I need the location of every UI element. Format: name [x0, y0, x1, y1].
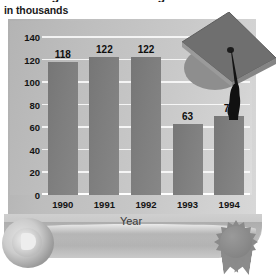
chart-title: ...Earning a B.A. or B.S. Degree — [4, 0, 276, 2]
y-tick-label: 80 — [10, 99, 40, 110]
bar-value-label: 122 — [125, 44, 167, 55]
diploma-scroll-roll-core — [21, 233, 36, 250]
y-tick-label: 20 — [10, 167, 40, 178]
bar — [48, 62, 78, 195]
y-tick-label: 0 — [10, 190, 40, 201]
bar-value-label: 122 — [84, 44, 126, 55]
bar-slot: 122 — [125, 21, 167, 195]
graduation-cap-tassel — [176, 8, 279, 120]
x-tick-label: 1993 — [167, 199, 209, 210]
y-tick-label: 120 — [10, 54, 40, 65]
y-tick-label: 100 — [10, 77, 40, 88]
bar — [131, 57, 161, 195]
x-tick-label: 1991 — [84, 199, 126, 210]
seal-inner-disc — [220, 226, 252, 258]
chart-subtitle: in thousands — [4, 4, 68, 16]
graduation-cap-icon — [176, 8, 279, 120]
x-tick-label: 1990 — [42, 199, 84, 210]
x-tick-label: 1994 — [208, 199, 250, 210]
bar — [173, 124, 203, 195]
y-tick-label: 60 — [10, 122, 40, 133]
y-tick-label: 140 — [10, 32, 40, 43]
x-tick-label: 1992 — [125, 199, 167, 210]
bar — [89, 57, 119, 195]
y-axis-ticks: 020406080100120140 — [10, 21, 40, 195]
bar-value-label: 118 — [42, 49, 84, 60]
bar-slot: 122 — [84, 21, 126, 195]
award-seal-icon — [212, 220, 260, 272]
bar — [214, 116, 244, 195]
y-tick-label: 40 — [10, 144, 40, 155]
bar-slot: 118 — [42, 21, 84, 195]
